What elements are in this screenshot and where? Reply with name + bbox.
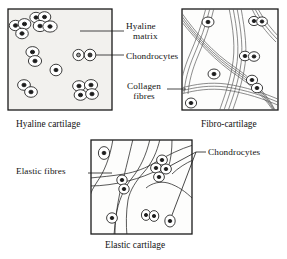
cartilage-figure: Hyaline matrix Chondrocytes Collagen fib… bbox=[0, 0, 287, 259]
label-chondrocytes-hyaline: Chondrocytes bbox=[126, 52, 178, 62]
panel-elastic-cartilage bbox=[88, 139, 206, 236]
label-hyaline-matrix-line1: Hyaline bbox=[126, 21, 156, 31]
label-chondrocytes-elastic: Chondrocytes bbox=[208, 148, 260, 158]
caption-elastic-cartilage: Elastic cartilage bbox=[105, 240, 165, 250]
panel-fibro-cartilage bbox=[167, 8, 280, 119]
panel-hyaline-cartilage bbox=[8, 9, 124, 110]
caption-hyaline-cartilage: Hyaline cartilage bbox=[16, 119, 80, 129]
label-elastic-fibres: Elastic fibres bbox=[16, 167, 66, 177]
label-hyaline-matrix: Hyaline matrix bbox=[126, 22, 158, 41]
label-hyaline-matrix-line2: matrix bbox=[126, 32, 158, 42]
label-collagen-fibres: Collagen fibres bbox=[122, 82, 166, 101]
label-collagen-fibres-line1: Collagen bbox=[127, 81, 161, 91]
caption-fibro-cartilage: Fibro-cartilage bbox=[201, 119, 257, 129]
label-collagen-fibres-line2: fibres bbox=[122, 92, 166, 102]
